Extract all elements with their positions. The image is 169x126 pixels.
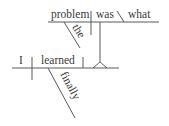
sentence-diagram: problem was what the I learned finally — [0, 0, 169, 126]
word-i: I — [19, 54, 23, 66]
word-learned: learned — [41, 54, 75, 66]
word-was: was — [96, 8, 114, 20]
clause-complement-divider — [117, 11, 124, 22]
word-problem: problem — [51, 8, 89, 21]
diagram-svg: problem was what the I learned finally — [0, 0, 169, 126]
word-finally: finally — [57, 69, 83, 102]
word-what: what — [128, 8, 151, 20]
